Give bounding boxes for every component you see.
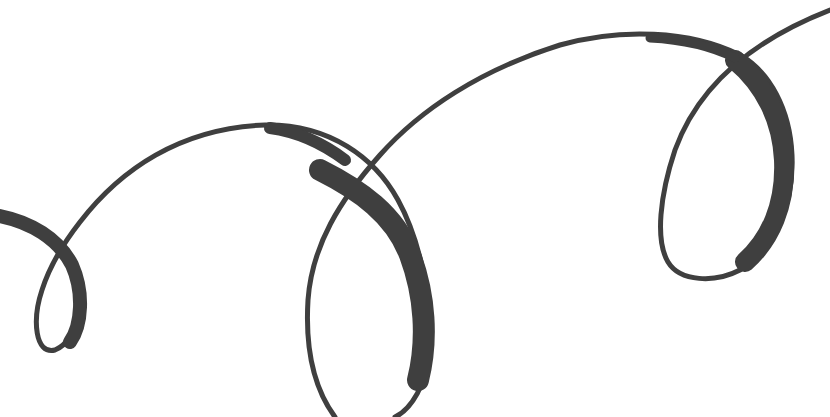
swirl-illustration (0, 0, 830, 417)
swirl-ribbon (0, 10, 830, 417)
